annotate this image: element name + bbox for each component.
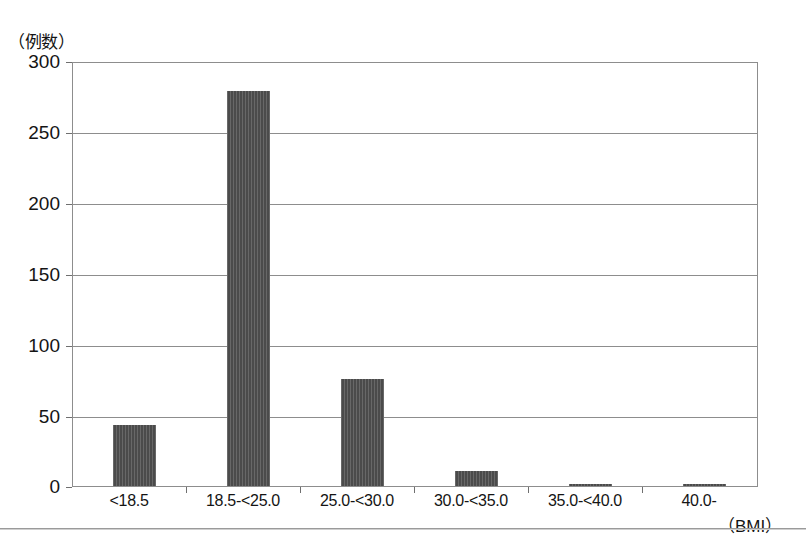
page-divider-rule: [0, 528, 806, 530]
bar-30-0-35-0[interactable]: [455, 471, 498, 487]
bar-35-0-40-0[interactable]: [569, 484, 612, 486]
bar-18-5-25-0[interactable]: [227, 91, 270, 486]
y-tick-label-100: 100: [8, 335, 60, 357]
bar-lt-18-5[interactable]: [113, 425, 156, 486]
y-tick-mark-0: [66, 487, 72, 488]
x-tick-label-25-0-30-0: 25.0-<30.0: [300, 492, 414, 510]
y-tick-label-150: 150: [8, 264, 60, 286]
y-tick-label-250: 250: [8, 122, 60, 144]
plot-area: [72, 62, 758, 487]
y-tick-label-200: 200: [8, 193, 60, 215]
x-tick-label-18-5-25-0: 18.5-<25.0: [186, 492, 300, 510]
gridline-250: [73, 133, 757, 134]
gridline-200: [73, 204, 757, 205]
x-tick-label-lt-18-5: <18.5: [72, 492, 186, 510]
x-tick-label-35-0-40-0: 35.0-<40.0: [528, 492, 642, 510]
gridline-150: [73, 275, 757, 276]
bar-40-0-plus[interactable]: [683, 484, 726, 486]
x-tick-label-30-0-35-0: 30.0-<35.0: [414, 492, 528, 510]
bar-25-0-30-0[interactable]: [341, 379, 384, 486]
x-tick-label-40-0-plus: 40.0-: [642, 492, 756, 510]
bmi-distribution-figure: （例数） 300 250 200 150 100 50 0: [0, 0, 806, 541]
y-tick-label-50: 50: [8, 406, 60, 428]
y-tick-label-0: 0: [8, 476, 60, 498]
y-axis-unit-label: （例数）: [8, 28, 74, 53]
y-tick-label-300: 300: [8, 51, 60, 73]
gridline-50: [73, 417, 757, 418]
gridline-100: [73, 346, 757, 347]
x-axis-unit-label: （BMI）: [718, 512, 782, 537]
